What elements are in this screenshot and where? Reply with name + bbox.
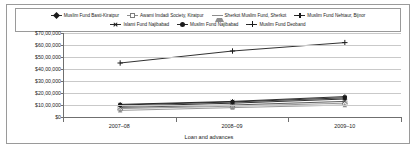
y-axis-tick-mark: [61, 33, 64, 34]
legend-row-1: Muslim Fund Basti-Kiratpur Awami Imdadi …: [18, 11, 398, 20]
y-axis-tick-label: $40,00,000: [35, 66, 61, 72]
legend-item-muslim-fund-najibabad: Muslim Fund Najibabad: [177, 20, 238, 29]
plus-marker-icon: [230, 48, 235, 53]
gridline: [64, 93, 401, 94]
x-axis-category-label: 2007–08: [109, 123, 130, 129]
x-axis-labels: 2007–082008–092009–10: [63, 123, 401, 133]
y-axis-tick-mark: [61, 81, 64, 82]
legend-item-awami-imdadi-society-kiratpur: Awami Imdadi Society, Kiratpur: [127, 11, 203, 20]
x-axis-tick-mark: [63, 117, 64, 122]
cross-marker-icon: [110, 20, 121, 29]
plus-marker-icon: [246, 20, 257, 29]
plus-marker-icon: [117, 60, 122, 65]
legend-row-2: Islami Fund Najibabad Muslim Fund Najiba…: [18, 20, 398, 29]
y-axis-tick-label: $20,00,000: [35, 90, 61, 96]
y-axis-tick-mark: [61, 57, 64, 58]
legend-item-islami-fund-najibabad: Islami Fund Najibabad: [110, 20, 169, 29]
x-axis-category-label: 2009–10: [334, 123, 355, 129]
y-axis-tick-label: $50,00,000: [35, 54, 61, 60]
square-open-marker-icon: [127, 11, 138, 20]
y-axis-tick-label: $30,00,000: [35, 78, 61, 84]
series-line: [117, 40, 347, 66]
plot-area: [63, 33, 401, 117]
y-axis-tick-mark: [61, 93, 64, 94]
y-axis-tick-mark: [61, 45, 64, 46]
gridline: [64, 57, 401, 58]
y-axis-labels: $0$10,00,000$20,00,000$30,00,000$40,00,0…: [11, 33, 61, 117]
star-marker-icon: [294, 11, 305, 20]
legend-item-sherkot-muslim-fund-sherkot: Sherkot Muslim Fund, Sherkot: [212, 11, 287, 20]
circle-marker-icon: [177, 20, 188, 29]
chart-container: Muslim Fund Basti-Kiratpur Awami Imdadi …: [6, 4, 410, 144]
y-axis-tick-label: $60,00,000: [35, 42, 61, 48]
legend-label: Muslim Fund Deoband: [259, 20, 305, 29]
y-axis-tick-mark: [61, 69, 64, 70]
x-axis-tick-mark: [288, 117, 289, 122]
chart-legend: Muslim Fund Basti-Kiratpur Awami Imdadi …: [15, 8, 401, 32]
legend-label: Muslim Fund Basti-Kiratpur: [64, 11, 119, 20]
legend-label: Muslim Fund Nehtaur, Bijnor: [307, 11, 365, 20]
y-axis-tick-mark: [61, 105, 64, 106]
legend-item-muslim-fund-basti-kiratpur: Muslim Fund Basti-Kiratpur: [51, 11, 119, 20]
legend-item-muslim-fund-deoband: Muslim Fund Deoband: [246, 20, 305, 29]
legend-item-muslim-fund-nehtaur-bijnor: Muslim Fund Nehtaur, Bijnor: [294, 11, 365, 20]
triangle-marker-icon: [212, 11, 223, 20]
x-axis-tick-mark: [401, 117, 402, 122]
x-axis-title: Loan and advances: [7, 134, 411, 140]
plot-area-wrapper: $0$10,00,000$20,00,000$30,00,000$40,00,0…: [7, 33, 411, 145]
gridline: [64, 105, 401, 106]
circle-marker-icon: [343, 96, 347, 100]
x-axis-category-label: 2008–09: [222, 123, 243, 129]
gridline: [64, 33, 401, 34]
diamond-marker-icon: [51, 11, 62, 20]
y-axis-tick-label: $10,00,000: [35, 102, 61, 108]
y-axis-tick-label: $70,00,000: [35, 30, 61, 36]
gridline: [64, 81, 401, 82]
gridline: [64, 45, 401, 46]
circle-marker-icon: [230, 100, 234, 104]
x-axis-tick-mark: [176, 117, 177, 122]
legend-label: Islami Fund Najibabad: [123, 20, 169, 29]
legend-label: Awami Imdadi Society, Kiratpur: [140, 11, 203, 20]
legend-label: Sherkot Muslim Fund, Sherkot: [225, 11, 287, 20]
gridline: [64, 69, 401, 70]
